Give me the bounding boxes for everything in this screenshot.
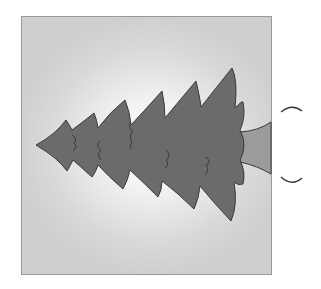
trunk-shape (240, 122, 271, 174)
tree-illustration (0, 0, 321, 289)
tree-shape (36, 68, 244, 221)
bracket-top-icon (281, 107, 302, 112)
bracket-bottom-icon (281, 177, 302, 182)
